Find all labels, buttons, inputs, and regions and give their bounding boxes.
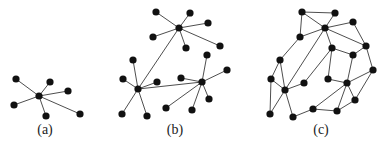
graph-node — [328, 44, 335, 51]
graph-edge — [280, 37, 300, 60]
graph-node — [186, 9, 193, 16]
graph-edge — [156, 12, 179, 28]
graph-node — [298, 8, 305, 15]
graph-edge — [166, 82, 202, 108]
graph-node — [216, 42, 223, 49]
graph-node — [289, 113, 296, 120]
graph-node — [300, 79, 307, 86]
graph-node — [134, 85, 141, 92]
graph-edge — [179, 28, 220, 46]
graph-edge — [202, 70, 227, 82]
graph-edge — [153, 28, 179, 37]
graph-edge — [179, 23, 208, 28]
graph-edge — [122, 89, 138, 114]
graph-edge — [300, 28, 325, 37]
graph-node — [266, 110, 273, 117]
graph-node — [276, 56, 283, 63]
graph-node — [296, 33, 303, 40]
graph-node — [119, 75, 126, 82]
panel-a-graph — [10, 75, 83, 119]
graph-node — [205, 95, 212, 102]
panel-b-label: (b) — [167, 122, 183, 138]
graph-node — [309, 105, 316, 112]
graph-node — [42, 112, 49, 119]
graph-node — [175, 24, 182, 31]
graph-node — [129, 56, 136, 63]
graph-node — [76, 110, 83, 117]
graph-node — [182, 44, 189, 51]
graph-node — [10, 101, 17, 108]
graph-node — [351, 96, 358, 103]
panel-c-graph — [266, 8, 376, 120]
graph-node — [162, 104, 169, 111]
graph-node — [149, 33, 156, 40]
graph-node — [223, 66, 230, 73]
graph-node — [153, 78, 160, 85]
graph-edge — [325, 22, 353, 28]
graph-node — [177, 74, 184, 81]
graph-edge — [16, 79, 39, 96]
graph-node — [333, 107, 340, 114]
graph-node — [35, 92, 42, 99]
graph-edge — [347, 55, 353, 83]
graph-node — [203, 51, 210, 58]
graph-node — [362, 42, 369, 49]
graph-edge — [14, 96, 39, 105]
graph-node — [349, 51, 356, 58]
graph-node — [349, 18, 356, 25]
graph-edge — [285, 90, 293, 117]
graph-node — [343, 79, 350, 86]
graph-node — [204, 19, 211, 26]
graph-edge — [325, 28, 366, 46]
graph-edge — [133, 60, 138, 89]
graph-node — [64, 87, 71, 94]
graph-edge — [39, 96, 80, 114]
graph-node — [369, 66, 376, 73]
graph-edge — [300, 12, 302, 37]
graph-edge — [280, 60, 285, 90]
graph-edge — [302, 12, 325, 28]
graph-edge — [366, 46, 373, 70]
graph-node — [267, 75, 274, 82]
graph-edge — [270, 79, 271, 114]
graph-edge — [192, 82, 202, 110]
panel-b-graph — [118, 8, 230, 119]
graph-node — [321, 24, 328, 31]
graph-edge — [138, 89, 147, 116]
graph-node — [324, 75, 331, 82]
graph-node — [281, 86, 288, 93]
graph-edge — [39, 91, 68, 96]
panel-a-label: (a) — [37, 122, 53, 138]
graph-node — [188, 106, 195, 113]
graph-edge — [202, 55, 207, 82]
graph-node — [143, 112, 150, 119]
graph-edge — [302, 12, 335, 13]
graph-edge — [270, 90, 285, 114]
graph-edge — [353, 22, 366, 46]
graph-edge — [313, 109, 337, 111]
graph-node — [331, 9, 338, 16]
panel-c-label: (c) — [313, 122, 329, 138]
graph-node — [12, 75, 19, 82]
graph-node — [198, 78, 205, 85]
graph-node — [46, 78, 53, 85]
network-diagram — [0, 0, 391, 147]
graph-node — [152, 8, 159, 15]
graph-node — [118, 110, 125, 117]
